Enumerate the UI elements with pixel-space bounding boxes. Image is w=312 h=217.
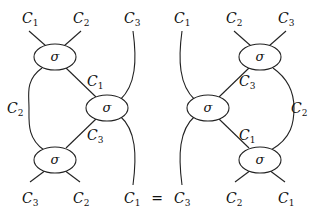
- wire-bottom-c2: [64, 170, 80, 182]
- sigma-node-bottom-right: σ: [239, 147, 281, 173]
- sigma-symbol: σ: [256, 49, 266, 64]
- label-top-1: C1: [174, 10, 190, 28]
- label-top-2: C2: [73, 10, 89, 28]
- right-diagram: σ σ σ C1 C2 C3 C3 C1 C2 C3 C2 C1: [174, 10, 307, 208]
- label-upper-diag: C3: [239, 73, 256, 91]
- wire-bottom-c1: [269, 170, 285, 182]
- sigma-symbol: σ: [204, 100, 214, 115]
- wire-side-c2: [29, 68, 44, 150]
- label-top-3: C3: [278, 10, 295, 28]
- sigma-node-top-right: σ: [239, 44, 281, 70]
- label-lower-diag: C3: [87, 127, 104, 145]
- label-lower-diag: C1: [239, 127, 255, 145]
- sigma-symbol: σ: [256, 152, 266, 167]
- label-bottom-2: C2: [226, 190, 242, 208]
- label-bottom-3: C1: [278, 190, 294, 208]
- wire-top-c2: [234, 31, 251, 46]
- sigma-node-bottom-left: σ: [34, 147, 76, 173]
- wire-bottom-c1: [120, 116, 135, 185]
- wire-top-c2: [64, 31, 81, 46]
- wire-top-c1: [29, 31, 46, 46]
- wire-top-c1: [180, 31, 195, 100]
- sigma-symbol: σ: [103, 100, 113, 115]
- label-side: C2: [7, 100, 23, 118]
- label-bottom-1: C3: [174, 190, 191, 208]
- label-top-1: C1: [22, 10, 38, 28]
- equals-sign: =: [151, 190, 163, 206]
- label-top-2: C2: [226, 10, 242, 28]
- sigma-node-top-left: σ: [34, 44, 76, 70]
- left-diagram: σ σ σ C1 C2 C3 C1 C3 C2 C3 C2 C1: [7, 10, 141, 208]
- label-upper-diag: C1: [87, 73, 103, 91]
- label-bottom-2: C2: [73, 190, 89, 208]
- sigma-node-middle: σ: [187, 95, 229, 121]
- wire-bottom-c3: [30, 170, 46, 182]
- wire-top-c3: [120, 31, 135, 100]
- yang-baxter-diagram: σ σ σ C1 C2 C3 C1 C3 C2 C3 C2 C1 =: [0, 0, 312, 217]
- wire-bottom-c3: [180, 116, 195, 185]
- label-bottom-1: C3: [22, 190, 39, 208]
- sigma-symbol: σ: [51, 49, 61, 64]
- label-bottom-3: C1: [124, 190, 140, 208]
- label-top-3: C3: [124, 10, 141, 28]
- sigma-node-middle: σ: [86, 95, 128, 121]
- wire-bottom-c2: [235, 170, 251, 182]
- wire-top-c3: [269, 31, 286, 46]
- sigma-symbol: σ: [51, 152, 61, 167]
- label-side: C2: [291, 100, 307, 118]
